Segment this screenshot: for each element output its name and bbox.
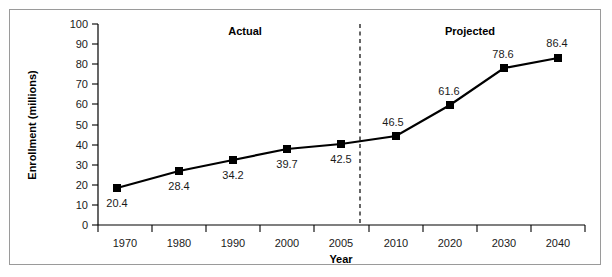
y-axis: 100 90 80 70 60 50 40 30 20 10 0 Enrollm… <box>26 18 98 231</box>
data-point-marker <box>337 140 345 148</box>
y-tick-label-0: 0 <box>82 219 88 231</box>
x-tick-label-2010: 2010 <box>384 237 408 249</box>
x-tick-label-1970: 1970 <box>113 237 137 249</box>
x-axis-title: Year <box>329 253 353 265</box>
data-label-2005: 42.5 <box>330 153 351 165</box>
y-axis-title: Enrollment (millions) <box>26 70 38 180</box>
data-point-marker <box>392 132 400 140</box>
y-tick-label-80: 80 <box>76 58 88 70</box>
y-tick-label-20: 20 <box>76 179 88 191</box>
y-tick-label-70: 70 <box>76 78 88 90</box>
x-tick-label-2000: 2000 <box>275 237 299 249</box>
data-point-marker <box>500 64 508 72</box>
y-axis-tick-labels: 100 90 80 70 60 50 40 30 20 10 0 <box>70 18 88 231</box>
data-label-2040: 86.4 <box>546 37 567 49</box>
x-axis-ticks <box>98 225 585 232</box>
line-chart-plot: 100 90 80 70 60 50 40 30 20 10 0 Enrollm… <box>0 0 612 277</box>
annotation-projected: Projected <box>445 25 495 37</box>
data-point-marker <box>175 167 183 175</box>
chart-figure: 100 90 80 70 60 50 40 30 20 10 0 Enrollm… <box>0 0 612 277</box>
data-point-marker <box>229 156 237 164</box>
data-label-2000: 39.7 <box>276 158 297 170</box>
data-point-marker <box>446 101 454 109</box>
data-label-2030: 78.6 <box>492 48 513 60</box>
y-tick-label-30: 30 <box>76 159 88 171</box>
data-point-marker <box>554 54 562 62</box>
x-tick-label-1990: 1990 <box>221 237 245 249</box>
x-axis-tick-labels: 1970 1980 1990 2000 2005 2010 2020 2030 … <box>113 237 570 249</box>
data-point-labels: 20.4 28.4 34.2 39.7 42.5 46.5 61.6 78.6 … <box>106 37 567 209</box>
y-tick-label-100: 100 <box>70 18 88 30</box>
annotation-actual: Actual <box>228 25 262 37</box>
x-axis: 1970 1980 1990 2000 2005 2010 2020 2030 … <box>98 225 585 265</box>
enrollment-series-line <box>117 58 558 188</box>
data-point-marker <box>113 184 121 192</box>
data-point-marker <box>283 145 291 153</box>
y-tick-label-90: 90 <box>76 38 88 50</box>
y-tick-label-10: 10 <box>76 199 88 211</box>
data-label-1990: 34.2 <box>222 169 243 181</box>
data-label-2010: 46.5 <box>382 116 403 128</box>
x-tick-label-2005: 2005 <box>329 237 353 249</box>
x-tick-label-2040: 2040 <box>546 237 570 249</box>
y-axis-ticks <box>92 24 98 225</box>
x-tick-label-2020: 2020 <box>438 237 462 249</box>
data-label-1980: 28.4 <box>168 180 189 192</box>
data-label-1970: 20.4 <box>106 197 127 209</box>
x-tick-label-1980: 1980 <box>167 237 191 249</box>
y-tick-label-50: 50 <box>76 119 88 131</box>
y-tick-label-60: 60 <box>76 98 88 110</box>
y-tick-label-40: 40 <box>76 139 88 151</box>
x-tick-label-2030: 2030 <box>492 237 516 249</box>
data-label-2020: 61.6 <box>438 85 459 97</box>
